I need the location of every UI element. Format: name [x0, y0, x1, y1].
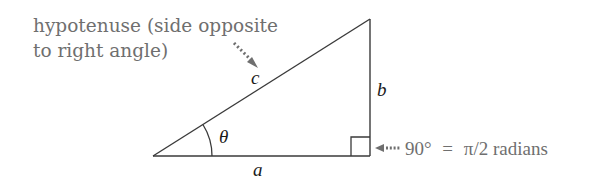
hypotenuse-annotation-line1: hypotenuse (side opposite [33, 15, 278, 36]
degrees-value: 90° [405, 138, 432, 159]
side-c-label: c [251, 67, 260, 88]
dotted-arrow-to-right-angle-icon [375, 144, 400, 152]
equals-sign: = [442, 138, 453, 159]
right-angle-marker [351, 137, 370, 156]
theta-arc [203, 125, 212, 157]
radians-value: π/2 radians [464, 138, 548, 159]
right-angle-annotation: 90° = π/2 radians [405, 138, 548, 159]
hypotenuse-annotation-line2: to right angle) [33, 40, 168, 61]
theta-label: θ [219, 126, 228, 147]
side-b-label: b [377, 79, 387, 100]
right-triangle-diagram: hypotenuse (side opposite to right angle… [0, 0, 590, 183]
side-c-hypotenuse-line [153, 19, 370, 156]
side-a-label: a [253, 159, 263, 180]
dotted-arrow-to-hypotenuse-icon [234, 43, 258, 68]
